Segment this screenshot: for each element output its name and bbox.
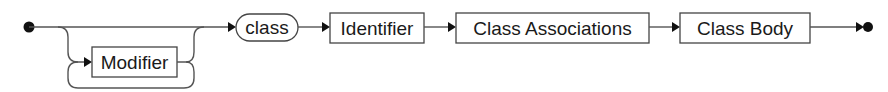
modifier-label: Modifier: [101, 52, 169, 73]
class-body-label: Class Body: [697, 18, 794, 39]
arrow-into-class: [228, 22, 236, 32]
end-marker: [863, 22, 873, 32]
class-keyword-node: class: [236, 14, 298, 41]
identifier-label: Identifier: [341, 18, 415, 39]
class-associations-label: Class Associations: [473, 18, 631, 39]
branch-up-to-main: [177, 27, 204, 62]
identifier-node: Identifier: [330, 13, 424, 43]
class-syntax-diagram: Modifier class Identifier Class Associat…: [0, 0, 888, 92]
arrow-into-end: [856, 22, 864, 32]
arrow-into-modifier: [84, 57, 92, 67]
arrow-into-body: [672, 22, 680, 32]
class-associations-node: Class Associations: [456, 13, 649, 43]
arrow-into-associations: [448, 22, 456, 32]
modifier-node: Modifier: [92, 47, 177, 77]
branch-down-to-modifier: [58, 27, 86, 62]
class-keyword-label: class: [245, 17, 288, 38]
class-body-node: Class Body: [680, 13, 810, 43]
arrow-into-identifier: [322, 22, 330, 32]
